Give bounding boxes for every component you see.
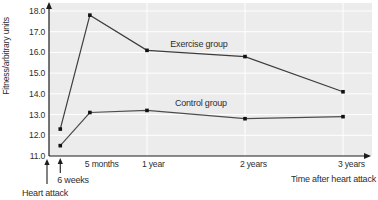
x-tick-label: 1 year <box>142 159 165 169</box>
y-tick-label: 11.0 <box>30 151 46 161</box>
y-tick-label: 18.0 <box>29 6 45 16</box>
y-tick-label: 13.0 <box>29 110 45 120</box>
x-tick-label: 2 years <box>240 159 267 169</box>
plot-area <box>49 3 372 156</box>
chart-figure: 11.012.013.014.015.016.017.018.05 months… <box>0 0 378 200</box>
six-weeks-label: 6 weeks <box>57 175 89 185</box>
exercise-group-data-point <box>58 127 62 131</box>
y-tick-label: 14.0 <box>29 89 45 99</box>
heart-attack-arrow-icon <box>44 159 49 165</box>
y-axis-title: Fitness/arbitrary units <box>1 17 11 95</box>
control-group-label: Control group <box>175 98 227 108</box>
control-group-data-point <box>341 115 345 119</box>
x-tick-label: 3 years <box>338 159 365 169</box>
control-group-data-point <box>145 109 149 113</box>
six-weeks-arrow-icon <box>58 158 63 164</box>
heart-attack-label: Heart attack <box>22 188 69 198</box>
x-tick-label: 5 months <box>85 159 119 169</box>
exercise-group-data-point <box>341 90 345 94</box>
y-tick-label: 16.0 <box>29 47 45 57</box>
x-axis-title: Time after heart attack <box>291 174 377 184</box>
exercise-group-data-point <box>145 49 149 53</box>
exercise-group-data-point <box>243 55 247 59</box>
fitness-line-chart: 11.012.013.014.015.016.017.018.05 months… <box>0 0 378 200</box>
y-tick-label: 17.0 <box>29 27 45 37</box>
exercise-group-label: Exercise group <box>170 39 227 49</box>
control-group-data-point <box>58 144 62 148</box>
y-tick-label: 15.0 <box>29 68 45 78</box>
control-group-data-point <box>88 111 92 115</box>
control-group-data-point <box>243 117 247 121</box>
y-tick-label: 12.0 <box>29 130 45 140</box>
exercise-group-data-point <box>88 13 92 17</box>
